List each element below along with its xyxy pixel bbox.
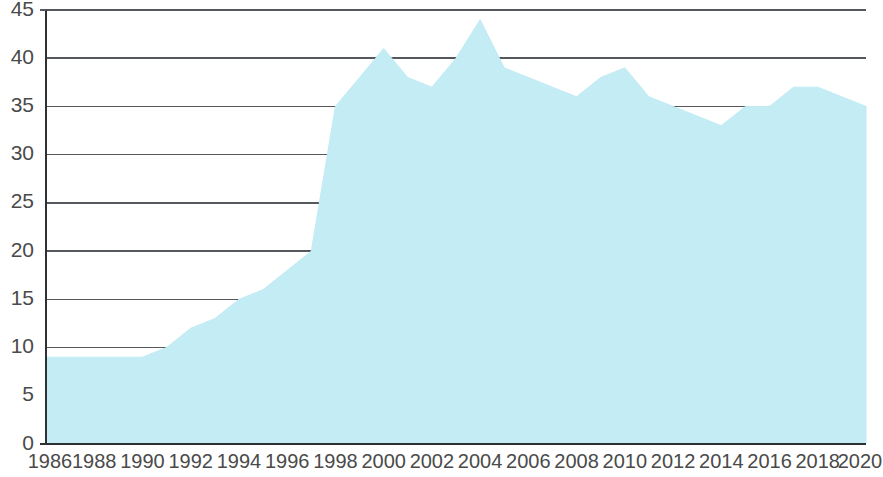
y-axis-tick-labels: 454035302520151050: [11, 0, 34, 454]
x-tick-label: 2012: [651, 450, 696, 472]
x-tick-label: 1988: [72, 450, 117, 472]
x-tick-label: 1994: [217, 450, 262, 472]
x-tick-label: 1990: [120, 450, 165, 472]
chart-canvas: 454035302520151050 198619881990199219941…: [0, 0, 883, 477]
y-tick-label: 15: [11, 286, 34, 309]
y-tick-label: 30: [11, 141, 34, 164]
y-tick-label: 40: [11, 45, 34, 68]
x-tick-label: 2006: [506, 450, 551, 472]
x-tick-label: 2018: [796, 450, 841, 472]
x-tick-label: 2000: [361, 450, 406, 472]
x-tick-label: 1998: [313, 450, 358, 472]
y-tick-label: 25: [11, 189, 34, 212]
y-tick-label: 5: [22, 382, 34, 405]
x-tick-label: 2008: [554, 450, 599, 472]
x-tick-label: 1986: [28, 450, 73, 472]
y-tick-label: 35: [11, 93, 34, 116]
x-axis-tick-labels: 1986198819901992199419961998200020022004…: [28, 450, 883, 472]
y-tick-label: 10: [11, 334, 34, 357]
y-tick-label: 20: [11, 238, 34, 261]
x-tick-label: 2014: [699, 450, 744, 472]
x-tick-label: 2010: [603, 450, 648, 472]
area-chart: 454035302520151050 198619881990199219941…: [0, 0, 883, 477]
x-tick-label: 1996: [265, 450, 310, 472]
y-tick-label: 45: [11, 0, 34, 20]
x-tick-label: 2004: [458, 450, 503, 472]
x-tick-label: 2016: [747, 450, 792, 472]
x-tick-label: 2002: [410, 450, 455, 472]
x-tick-label: 1992: [168, 450, 213, 472]
x-tick-label: 2020: [838, 450, 883, 472]
